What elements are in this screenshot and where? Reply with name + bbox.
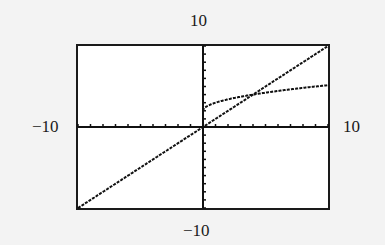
ymax-label: 10 [190, 12, 207, 29]
xmin-label: −10 [32, 118, 59, 135]
ymin-label: −10 [183, 222, 210, 239]
graph-screen [76, 44, 330, 210]
xmax-label: 10 [343, 118, 360, 135]
